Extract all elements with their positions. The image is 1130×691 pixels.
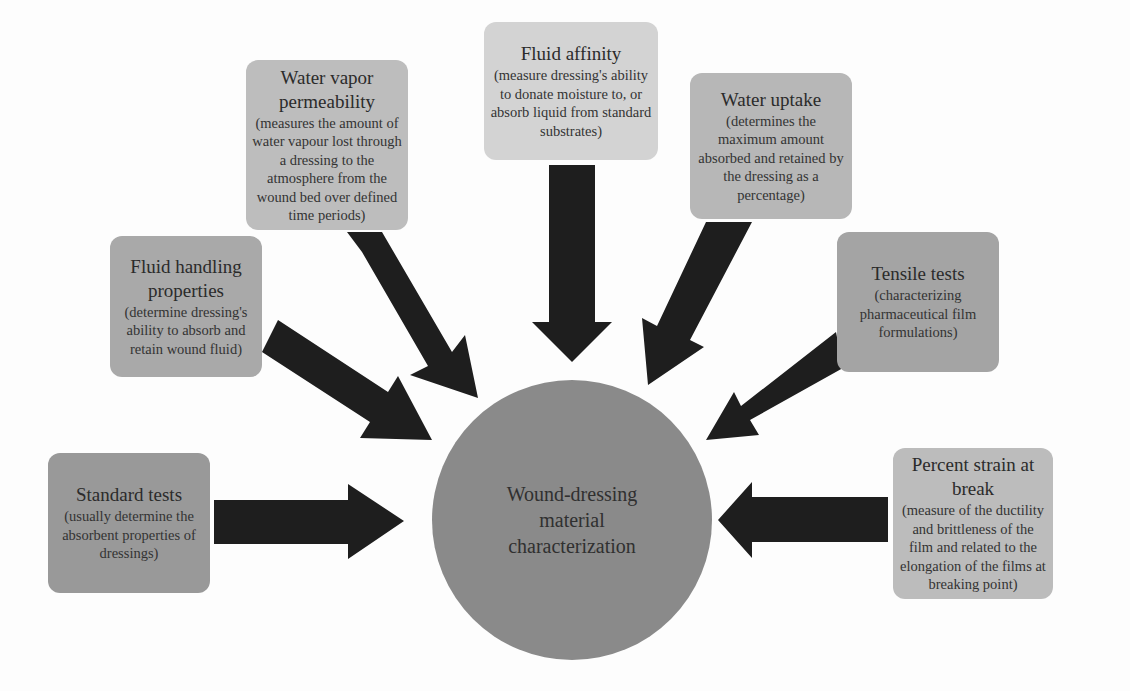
node-water-uptake: Water uptake (determines the maximum amo… [690,73,852,219]
node-title: Water uptake [721,88,821,112]
arrow-water-uptake-icon [642,222,752,385]
node-description: (characterizing pharmaceutical film form… [843,286,993,342]
node-standard-tests: Standard tests (usually determine the ab… [48,453,210,593]
node-description: (usually determine the absorbent propert… [54,507,204,563]
node-description: (measure dressing's ability to donate mo… [490,66,652,140]
node-title: Fluid handling properties [116,255,256,303]
node-water-vapor: Water vapor permeability (measures the a… [246,60,408,230]
node-description: (measures the amount of water vapour los… [252,114,402,225]
node-title: Standard tests [76,483,182,507]
center-node: Wound-dressing material characterization [432,380,712,660]
node-description: (determines the maximum amount absorbed … [696,112,846,205]
arrow-standard-tests-icon [214,484,404,559]
node-title: Fluid affinity [521,42,621,66]
node-tensile-tests: Tensile tests (characterizing pharmaceut… [837,232,999,372]
arrow-fluid-affinity-icon [532,165,612,362]
arrow-percent-strain-icon [718,482,888,558]
center-label: Wound-dressing material characterization [487,481,657,559]
node-fluid-handling: Fluid handling properties (determine dre… [110,236,262,377]
node-description: (determine dressing's ability to absorb … [116,303,256,359]
node-description: (measure of the ductility and brittlenes… [899,501,1047,594]
wound-dressing-diagram: Wound-dressing material characterization… [0,0,1130,691]
node-fluid-affinity: Fluid affinity (measure dressing's abili… [484,22,658,160]
arrow-tensile-tests-icon [706,332,843,440]
node-title: Water vapor permeability [252,66,402,114]
arrow-fluid-handling-icon [262,320,432,440]
node-title: Tensile tests [871,262,964,286]
arrow-water-vapor-icon [347,232,478,398]
node-percent-strain: Percent strain at break (measure of the … [893,448,1053,599]
node-title: Percent strain at break [899,453,1047,501]
